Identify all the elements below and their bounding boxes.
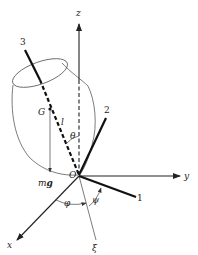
psi-angle: ψ [89,188,101,206]
center-of-mass: G [38,107,52,117]
length-label: l [61,117,64,127]
top-body-outline [9,53,95,175]
axis-2-label: 2 [104,105,110,115]
z-axis: z [75,8,81,175]
gravity-label: g [47,178,53,188]
phi-label: φ [64,198,71,208]
phi-angle: φ [56,198,86,208]
axis-3-label: 3 [20,37,26,47]
weight-vector: mg [38,110,53,188]
svg-text:mg: mg [38,178,53,188]
xi-label: ξ [92,243,98,253]
y-axis-label: y [183,171,190,181]
x-axis-label: x [7,240,12,250]
euler-angles-diagram: z y x ξ 3 2 1 G mg l θ O [0,0,198,255]
y-axis: y [79,171,190,181]
theta-label: θ [70,131,76,141]
mass-label: m [38,178,47,188]
origin-label: O [69,170,77,180]
g-point-label: G [38,107,45,117]
z-axis-label: z [75,8,81,18]
xi-line: ξ [79,176,98,253]
body-axis-3: 3 [20,37,79,175]
axis-1-label: 1 [137,193,143,203]
body-axis-1: 1 [79,176,143,203]
psi-label: ψ [92,195,100,205]
body-axis-2: 2 [79,105,110,175]
